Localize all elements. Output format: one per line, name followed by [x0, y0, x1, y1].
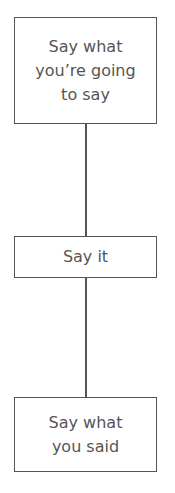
node-say-it: Say it — [14, 236, 157, 278]
node-say-what-you-said: Say what you said — [14, 397, 157, 472]
node-text-line: you said — [49, 435, 123, 459]
node-text-line: Say it — [63, 245, 108, 269]
node-text-line: Say what — [49, 411, 123, 435]
node-text-line: Say what — [35, 35, 135, 59]
connector-line-2-3 — [85, 278, 87, 397]
node-text-line: you’re going — [35, 59, 135, 83]
node-say-what-youre-going-to-say: Say what you’re going to say — [14, 17, 157, 124]
node-text-line: to say — [35, 83, 135, 107]
connector-line-1-2 — [85, 124, 87, 236]
